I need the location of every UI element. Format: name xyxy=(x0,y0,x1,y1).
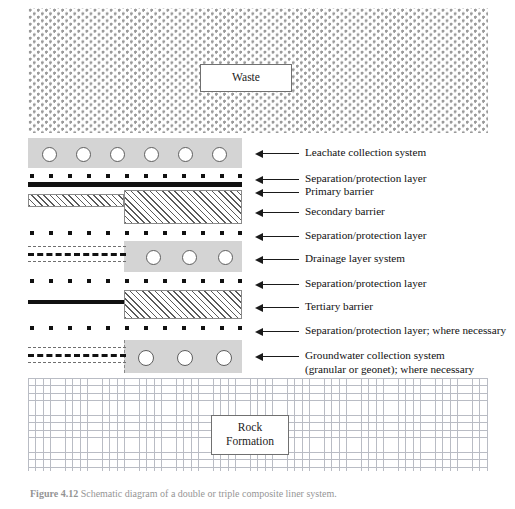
drainage-pipe xyxy=(218,250,233,265)
callout-label: Drainage layer system xyxy=(299,252,405,266)
rock-label-line-1: Rock xyxy=(238,421,262,435)
callout-label: Groundwater collection system (granular … xyxy=(299,349,474,376)
leachate-pipe xyxy=(144,147,159,162)
rock-formation-label: Rock Formation xyxy=(211,415,289,455)
secondary-barrier-divider xyxy=(124,190,125,224)
groundwater-pipe xyxy=(177,350,193,366)
callout-label: Secondary barrier xyxy=(299,205,385,219)
groundwater-geonet xyxy=(28,347,126,363)
tertiary-barrier-clay xyxy=(124,290,242,319)
figure-caption: Figure 4.12 Schematic diagram of a doubl… xyxy=(30,487,500,500)
leachate-pipe xyxy=(178,147,193,162)
secondary-barrier-left xyxy=(28,194,124,207)
arrow-left-icon xyxy=(255,175,299,184)
rock-label-line-2: Formation xyxy=(226,435,274,449)
callout-groundwater-collection-system: Groundwater collection system (granular … xyxy=(255,349,474,376)
arrow-left-icon xyxy=(255,208,299,217)
tertiary-barrier-geomembrane xyxy=(28,300,126,304)
groundwater-granular-block xyxy=(124,340,242,373)
callout-drainage-layer-system: Drainage layer system xyxy=(255,252,405,266)
leachate-pipe xyxy=(110,147,125,162)
arrow-left-icon xyxy=(255,352,299,361)
callout-secondary-barrier: Secondary barrier xyxy=(255,205,385,219)
callout-label: Separation/protection layer xyxy=(299,172,426,186)
separation-protection-layer-4 xyxy=(30,326,242,331)
figure-caption-text: Schematic diagram of a double or triple … xyxy=(78,488,337,499)
arrow-left-icon xyxy=(255,280,299,289)
groundwater-pipe xyxy=(216,350,232,366)
separation-protection-layer-2 xyxy=(30,231,242,236)
leachate-pipe xyxy=(76,147,91,162)
separation-protection-layer-3 xyxy=(30,279,242,284)
callout-primary-barrier: Primary barrier xyxy=(255,185,374,199)
callout-leachate-collection-system: Leachate collection system xyxy=(255,146,426,160)
drainage-pipe xyxy=(146,250,161,265)
separation-protection-layer-1 xyxy=(30,174,242,179)
drainage-pipe xyxy=(182,250,197,265)
figure-caption-number: Figure 4.12 xyxy=(30,488,78,499)
callout-label: Separation/protection layer; where neces… xyxy=(299,324,506,338)
arrow-left-icon xyxy=(255,303,299,312)
callout-tertiary-barrier: Tertiary barrier xyxy=(255,300,373,314)
drainage-geonet xyxy=(28,246,126,262)
callout-label: Primary barrier xyxy=(299,185,374,199)
callout-separation-protection-2: Separation/protection layer xyxy=(255,229,426,243)
liner-system-figure: Waste xyxy=(0,0,515,509)
callout-label: Tertiary barrier xyxy=(299,300,373,314)
groundwater-pipe xyxy=(138,350,154,366)
callout-label: Leachate collection system xyxy=(299,146,426,160)
callout-separation-protection-3: Separation/protection layer xyxy=(255,277,426,291)
arrow-left-icon xyxy=(255,149,299,158)
leachate-pipe xyxy=(42,147,57,162)
secondary-barrier-right xyxy=(124,190,242,224)
arrow-left-icon xyxy=(255,188,299,197)
arrow-left-icon xyxy=(255,255,299,264)
drainage-granular-block xyxy=(124,241,242,272)
arrow-left-icon xyxy=(255,232,299,241)
waste-label: Waste xyxy=(200,64,292,92)
arrow-left-icon xyxy=(255,327,299,336)
callout-label: Separation/protection layer xyxy=(299,277,426,291)
leachate-pipe xyxy=(212,147,227,162)
callout-label: Separation/protection layer xyxy=(299,229,426,243)
callout-separation-protection-4: Separation/protection layer; where neces… xyxy=(255,324,506,338)
leachate-collection-layer xyxy=(28,138,242,168)
primary-barrier-layer xyxy=(28,182,242,187)
callout-separation-protection-1: Separation/protection layer xyxy=(255,172,426,186)
